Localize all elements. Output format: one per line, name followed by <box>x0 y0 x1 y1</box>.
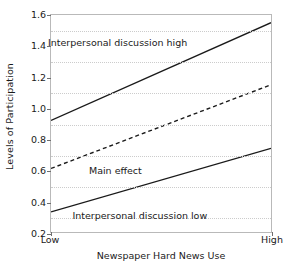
series-lines <box>51 15 271 232</box>
y-tick-label: 0.8 <box>31 134 46 145</box>
series-annotation-label: Interpersonal discussion low <box>72 210 207 221</box>
y-tick-label: 1.0 <box>31 102 46 113</box>
y-tick-label: 1.6 <box>31 9 46 20</box>
gridline <box>51 31 271 32</box>
series-annotation-label: Main effect <box>89 164 142 175</box>
y-tick-label: 0.4 <box>31 196 46 207</box>
series-line <box>51 148 271 212</box>
gridline <box>51 93 271 94</box>
x-tick-label: High <box>261 234 283 245</box>
y-axis-title: Levels of Participation <box>0 0 18 232</box>
x-tick-label: Low <box>41 234 60 245</box>
y-tick-mark <box>47 109 51 110</box>
gridline <box>51 62 271 63</box>
y-tick-label: 1.4 <box>31 40 46 51</box>
x-axis-title: Newspaper Hard News Use <box>50 250 272 261</box>
gridline <box>51 125 271 126</box>
y-tick-mark <box>47 171 51 172</box>
gridline <box>51 187 271 188</box>
y-tick-mark <box>47 203 51 204</box>
gridline <box>51 156 271 157</box>
y-tick-label: 1.2 <box>31 71 46 82</box>
y-tick-label: 0.6 <box>31 165 46 176</box>
y-tick-mark <box>47 78 51 79</box>
plot-area: Interpersonal discussion highMain effect… <box>50 14 272 233</box>
y-axis-title-text: Levels of Participation <box>4 63 15 170</box>
y-axis-tick-labels: 0.20.40.60.81.01.21.41.6 <box>18 0 48 232</box>
y-tick-mark <box>47 140 51 141</box>
chart-figure: Levels of Participation 0.20.40.60.81.01… <box>0 0 287 272</box>
x-axis-tick-labels: LowHigh <box>50 234 272 248</box>
series-annotation-label: Interpersonal discussion high <box>48 36 187 47</box>
y-tick-mark <box>47 15 51 16</box>
